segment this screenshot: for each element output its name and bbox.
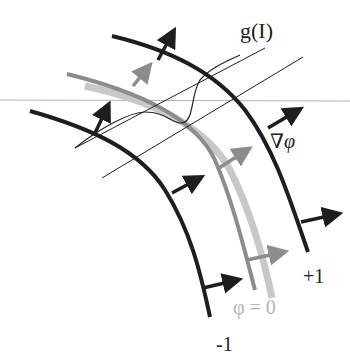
g-of-i-curve: [75, 55, 240, 148]
gradient-arrow-icon: [203, 281, 233, 288]
plus-one-label: +1: [303, 266, 324, 286]
gradient-arrow-icon: [133, 70, 146, 86]
level-set-diagram: g(I) ∇φ +1 φ = 0 -1: [0, 0, 350, 361]
g-of-i-label: g(I): [240, 20, 273, 42]
phi-zero-label: φ = 0: [233, 297, 276, 317]
gradient-arrow-icon: [172, 180, 196, 193]
minus-one-label: -1: [216, 334, 233, 354]
horizon-line: [0, 100, 350, 101]
minus-one-contour: [30, 111, 210, 317]
diagram-svg: [0, 0, 350, 361]
gradient-arrow-icon: [268, 112, 295, 128]
gradient-arrow-icon: [301, 215, 333, 222]
gradient-phi-label: ∇φ: [270, 131, 295, 151]
